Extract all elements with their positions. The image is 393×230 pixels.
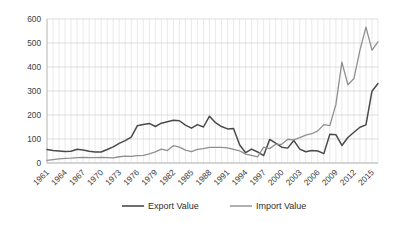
- x-tick-label: 2000: [265, 167, 285, 187]
- chart-canvas: 6005004003002001000 19611964196719701973…: [0, 0, 393, 230]
- line-chart: 6005004003002001000 19611964196719701973…: [0, 0, 393, 230]
- x-tick-label: 2003: [284, 167, 304, 187]
- legend-label-export-value[interactable]: Export Value: [148, 201, 199, 211]
- series-layer: [47, 27, 378, 160]
- x-tick-label: 1973: [103, 167, 123, 187]
- x-tick-label: 1967: [67, 167, 87, 187]
- x-tick-label: 1982: [157, 167, 177, 187]
- x-axis-tick-labels: 1961196419671970197319761979198219851988…: [31, 167, 376, 187]
- y-tick-label: 400: [27, 62, 41, 72]
- x-tick-label: 2009: [320, 167, 340, 187]
- x-tick-label: 1985: [175, 167, 195, 187]
- x-tick-label: 1970: [85, 167, 105, 187]
- series-line-export-value: [47, 84, 378, 156]
- y-tick-label: 300: [27, 86, 41, 96]
- y-tick-label: 0: [36, 158, 41, 168]
- legend-label-import-value[interactable]: Import Value: [256, 201, 306, 211]
- x-tick-label: 2015: [356, 167, 376, 187]
- x-tick-label: 1976: [121, 167, 141, 187]
- x-tick-label: 1961: [31, 167, 51, 187]
- x-tick-label: 1994: [229, 167, 249, 187]
- x-tick-label: 1991: [211, 167, 231, 187]
- x-tick-label: 1997: [247, 167, 267, 187]
- x-tick-label: 1964: [49, 167, 69, 187]
- y-tick-label: 500: [27, 38, 41, 48]
- x-tick-label: 2012: [338, 167, 358, 187]
- x-tick-label: 1979: [139, 167, 159, 187]
- x-tick-label: 1988: [193, 167, 213, 187]
- y-tick-label: 600: [27, 14, 41, 24]
- x-tick-label: 2006: [302, 167, 322, 187]
- y-tick-label: 200: [27, 110, 41, 120]
- y-axis-tick-labels: 6005004003002001000: [27, 14, 41, 168]
- y-tick-label: 100: [27, 134, 41, 144]
- chart-legend: Export ValueImport Value: [122, 201, 306, 211]
